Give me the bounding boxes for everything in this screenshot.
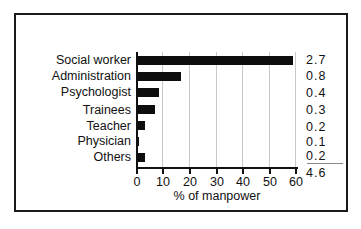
value-6: 0.2 xyxy=(306,150,344,163)
x-axis-label: % of manpower xyxy=(136,189,298,203)
x-tick-label-50: 50 xyxy=(259,175,281,189)
gridline-60 xyxy=(295,52,296,168)
plot-area xyxy=(136,52,296,168)
x-tick-label-20: 20 xyxy=(179,175,201,189)
value-1: 0.8 xyxy=(306,70,344,83)
x-tick-20 xyxy=(189,169,191,174)
chart-figure: Social worker Administration Psychologis… xyxy=(0,0,361,229)
x-tick-label-60: 60 xyxy=(285,175,307,189)
value-4: 0.2 xyxy=(306,121,344,134)
gridline-30 xyxy=(216,52,217,168)
total-rule xyxy=(307,163,343,164)
value-column: 2.7 0.8 0.4 0.3 0.2 0.1 0.2 4.6 xyxy=(306,0,350,229)
bar-social-worker xyxy=(136,56,293,65)
x-tick-label-30: 30 xyxy=(206,175,228,189)
x-tick-30 xyxy=(216,169,218,174)
gridline-10 xyxy=(162,52,163,168)
category-label-6: Others xyxy=(1,151,131,164)
value-3: 0.3 xyxy=(306,104,344,117)
category-label-4: Teacher xyxy=(1,120,131,133)
bar-administration xyxy=(136,72,181,81)
x-tick-40 xyxy=(242,169,244,174)
category-axis-labels: Social worker Administration Psychologis… xyxy=(0,0,131,229)
value-2: 0.4 xyxy=(306,87,344,100)
total-value: 4.6 xyxy=(306,167,344,180)
bar-psychologist xyxy=(136,88,159,97)
category-label-2: Psychologist xyxy=(1,86,131,99)
y-axis-spine xyxy=(136,52,138,168)
category-label-3: Trainees xyxy=(1,104,131,117)
bar-trainees xyxy=(136,105,155,114)
x-tick-0 xyxy=(136,169,138,174)
category-label-1: Administration xyxy=(1,70,131,83)
x-tick-10 xyxy=(162,169,164,174)
category-label-0: Social worker xyxy=(1,54,131,67)
gridline-20 xyxy=(189,52,190,168)
x-tick-60 xyxy=(295,169,297,174)
x-tick-50 xyxy=(269,169,271,174)
x-tick-label-10: 10 xyxy=(152,175,174,189)
gridline-50 xyxy=(269,52,270,168)
x-tick-label-40: 40 xyxy=(232,175,254,189)
x-tick-label-0: 0 xyxy=(126,175,148,189)
category-label-5: Physician xyxy=(1,135,131,148)
gridline-40 xyxy=(242,52,243,168)
value-0: 2.7 xyxy=(306,54,344,67)
value-5: 0.1 xyxy=(306,136,344,149)
